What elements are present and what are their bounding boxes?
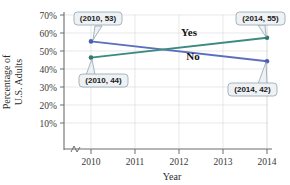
y-tick-label: 40% [40,65,58,75]
y-tick-label: 60% [40,29,58,39]
x-axis-title: Year [163,171,182,182]
data-point-marker [89,39,94,44]
x-tick-label: 2014 [258,157,277,167]
line-chart: 70% 60% 50% 40% 30% 20% 10% 2010 2011 20… [0,0,290,185]
y-tick-label: 70% [40,11,58,21]
x-tick-label: 2012 [170,157,189,167]
annotation-label: (2010, 44) [85,76,122,85]
y-axis-title-line2: U.S. Adults [13,59,24,106]
series-label-no: No [186,50,200,62]
annotation-label: (2014, 55) [242,14,279,23]
x-tick-label: 2011 [126,157,145,167]
data-point-marker [89,55,94,60]
y-axis-title-line1: Percentage of [1,54,12,109]
y-tick-label: 30% [40,83,58,93]
annotation-label: (2010, 53) [80,14,117,23]
y-tick-label: 20% [40,101,58,111]
annotation-label: (2014, 42) [234,85,271,94]
series-label-yes: Yes [181,26,198,38]
y-tick-label: 50% [40,47,58,57]
chart-canvas: 70% 60% 50% 40% 30% 20% 10% 2010 2011 20… [0,0,290,185]
y-tick-label: 10% [40,119,58,129]
x-tick-label: 2010 [82,157,101,167]
y-axis-title: Percentage of U.S. Adults [1,54,24,109]
x-tick-label: 2013 [214,157,233,167]
